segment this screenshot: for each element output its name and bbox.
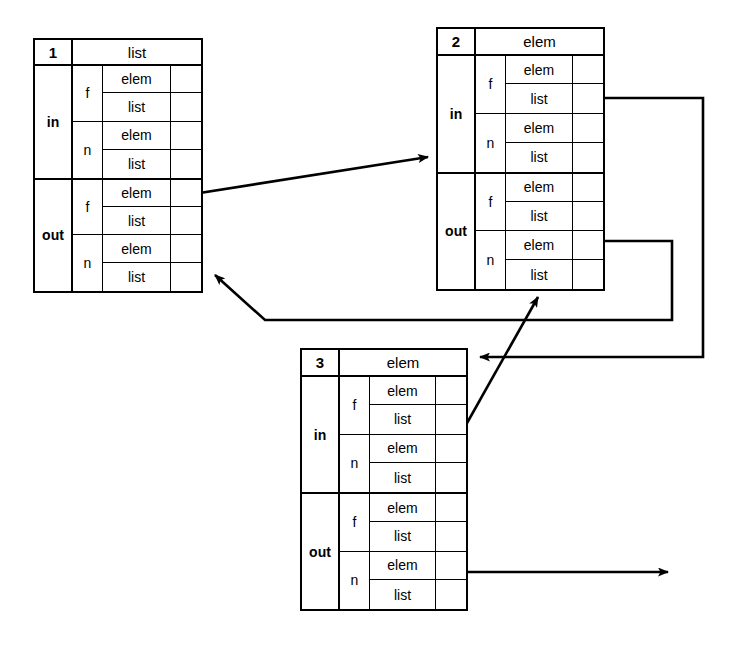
node-2-out-n-elem-pointer[interactable]	[573, 231, 603, 259]
node-1-header: 1 list	[35, 40, 201, 66]
node-1-out-n-list-pointer[interactable]	[171, 263, 201, 291]
node-3-section-out: out f elem list	[302, 494, 466, 609]
node-1-out-f-slot-list[interactable]: list	[103, 207, 201, 234]
node-2-in-n-slot-list[interactable]: list	[506, 143, 603, 172]
node-1[interactable]: 1 list in f elem list	[33, 38, 203, 293]
node-3-out-group-n: n elem list	[340, 552, 466, 610]
node-3-out-n-key: n	[340, 552, 370, 610]
node-1-out-fields: f elem list n	[73, 180, 201, 292]
edge-node3-out-n-elem-to-right	[446, 568, 669, 577]
node-1-in-fields: f elem list n	[73, 66, 201, 178]
node-2-section-in-label: in	[438, 56, 476, 172]
node-3-in-f-elem-pointer[interactable]	[436, 377, 466, 404]
node-1-in-n-list-label: list	[103, 150, 171, 178]
node-2-in-f-slots: elem list	[506, 56, 603, 113]
node-2-in-f-list-label: list	[506, 84, 573, 112]
node-1-out-f-elem-label: elem	[103, 180, 171, 206]
node-3-section-out-label: out	[302, 494, 340, 609]
node-2-out-f-list-pointer[interactable]	[573, 202, 603, 230]
node-1-out-n-elem-pointer[interactable]	[171, 235, 201, 262]
node-3-in-n-elem-pointer[interactable]	[436, 435, 466, 463]
node-1-id: 1	[35, 40, 73, 64]
node-1-out-n-slot-list[interactable]: list	[103, 263, 201, 291]
node-1-in-f-slot-list[interactable]: list	[103, 93, 201, 120]
node-1-type: list	[73, 40, 201, 64]
node-2-out-f-slot-list[interactable]: list	[506, 202, 603, 230]
node-1-in-n-elem-label: elem	[103, 122, 171, 149]
node-1-in-group-n: n elem list	[73, 122, 201, 178]
node-3-in-f-slots: elem list	[370, 377, 466, 434]
node-3-in-n-slot-list[interactable]: list	[370, 463, 466, 492]
node-2-in-n-slot-elem[interactable]: elem	[506, 114, 603, 143]
node-2-in-n-list-label: list	[506, 143, 573, 172]
node-3-in-n-list-label: list	[370, 463, 436, 492]
node-2-in-f-list-pointer[interactable]	[573, 84, 603, 112]
node-2-out-n-list-label: list	[506, 260, 573, 289]
node-3-section-in-label: in	[302, 377, 340, 492]
node-1-in-n-slot-list[interactable]: list	[103, 150, 201, 178]
node-1-in-f-elem-pointer[interactable]	[171, 66, 201, 92]
node-3-in-n-slot-elem[interactable]: elem	[370, 435, 466, 464]
node-2-out-fields: f elem list n	[476, 174, 603, 290]
node-1-in-f-slot-elem[interactable]: elem	[103, 66, 201, 93]
node-2-out-f-slot-elem[interactable]: elem	[506, 174, 603, 202]
node-2-in-f-elem-label: elem	[506, 56, 573, 83]
node-3-type: elem	[340, 350, 466, 375]
node-2-section-out-label: out	[438, 174, 476, 290]
node-1-in-n-elem-pointer[interactable]	[171, 122, 201, 149]
node-3-out-f-list-pointer[interactable]	[436, 522, 466, 550]
node-3-out-f-slot-list[interactable]: list	[370, 522, 466, 550]
node-2[interactable]: 2 elem in f elem list	[436, 27, 605, 291]
node-3-out-n-slot-list[interactable]: list	[370, 580, 466, 609]
node-2-out-n-list-pointer[interactable]	[573, 260, 603, 289]
node-2-in-f-slot-list[interactable]: list	[506, 84, 603, 112]
node-1-out-group-f: f elem list	[73, 180, 201, 236]
node-2-in-n-elem-label: elem	[506, 114, 573, 142]
node-3-in-f-list-pointer[interactable]	[436, 405, 466, 433]
diagram-canvas: 1 list in f elem list	[0, 0, 737, 647]
node-2-out-n-slot-elem[interactable]: elem	[506, 231, 603, 260]
node-2-in-f-key: f	[476, 56, 506, 113]
node-3-out-n-list-pointer[interactable]	[436, 580, 466, 609]
node-2-in-n-elem-pointer[interactable]	[573, 114, 603, 142]
node-2-out-f-key: f	[476, 174, 506, 231]
node-2-out-n-slot-list[interactable]: list	[506, 260, 603, 289]
node-3-out-n-slot-elem[interactable]: elem	[370, 552, 466, 581]
node-2-in-n-slots: elem list	[506, 114, 603, 172]
node-2-in-n-list-pointer[interactable]	[573, 143, 603, 172]
node-1-in-n-list-pointer[interactable]	[171, 150, 201, 178]
node-3-out-n-list-label: list	[370, 580, 436, 609]
node-1-out-n-slot-elem[interactable]: elem	[103, 235, 201, 263]
node-3-in-fields: f elem list n	[340, 377, 466, 492]
node-3-out-n-elem-label: elem	[370, 552, 436, 580]
node-2-in-n-key: n	[476, 114, 506, 172]
node-3-out-f-slot-elem[interactable]: elem	[370, 494, 466, 522]
node-3-in-f-elem-label: elem	[370, 377, 436, 404]
node-1-out-f-elem-pointer[interactable]	[171, 180, 201, 206]
node-1-out-f-list-pointer[interactable]	[171, 207, 201, 234]
node-2-out-n-key: n	[476, 231, 506, 289]
node-1-out-group-n: n elem list	[73, 235, 201, 291]
node-2-out-f-elem-label: elem	[506, 174, 573, 201]
node-3-out-f-slots: elem list	[370, 494, 466, 551]
node-1-in-f-list-pointer[interactable]	[171, 93, 201, 120]
node-3-in-group-f: f elem list	[340, 377, 466, 435]
node-3-out-f-elem-label: elem	[370, 494, 436, 521]
node-3-in-f-slot-list[interactable]: list	[370, 405, 466, 433]
node-3-in-f-slot-elem[interactable]: elem	[370, 377, 466, 405]
node-2-out-group-n: n elem list	[476, 231, 603, 289]
node-3-in-group-n: n elem list	[340, 435, 466, 493]
node-3-in-n-list-pointer[interactable]	[436, 463, 466, 492]
node-1-in-n-slot-elem[interactable]: elem	[103, 122, 201, 150]
node-2-in-f-slot-elem[interactable]: elem	[506, 56, 603, 84]
node-2-in-f-elem-pointer[interactable]	[573, 56, 603, 83]
node-3-out-f-elem-pointer[interactable]	[436, 494, 466, 521]
node-3[interactable]: 3 elem in f elem list	[300, 348, 468, 611]
node-1-section-out-label: out	[35, 180, 73, 292]
node-1-out-f-slot-elem[interactable]: elem	[103, 180, 201, 207]
node-3-in-n-elem-label: elem	[370, 435, 436, 463]
node-3-out-n-elem-pointer[interactable]	[436, 552, 466, 580]
node-2-out-f-slots: elem list	[506, 174, 603, 231]
node-2-out-f-elem-pointer[interactable]	[573, 174, 603, 201]
node-2-type: elem	[476, 29, 603, 54]
